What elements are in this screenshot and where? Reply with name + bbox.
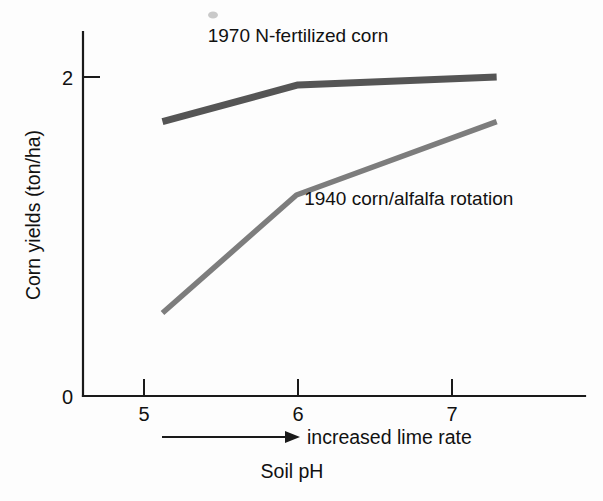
series-line-1940-corn-alfalfa-rotation [162, 122, 496, 313]
x-tick-label-5: 5 [138, 403, 149, 425]
chart-figure: 2 0 5 6 7 1970 N-fertilized corn 1940 co… [0, 0, 603, 501]
scan-artifact-speck [208, 12, 218, 19]
line-chart-canvas: 2 0 5 6 7 1970 N-fertilized corn 1940 co… [0, 0, 603, 501]
y-tick-label-0: 0 [62, 386, 73, 408]
series-label-lower: 1940 corn/alfalfa rotation [304, 188, 513, 209]
series-label-upper: 1970 N-fertilized corn [208, 25, 389, 46]
y-axis-title: Corn yields (ton/ha) [22, 130, 44, 300]
series-line-1970-n-fertilized-corn [162, 77, 496, 122]
lime-rate-label: increased lime rate [307, 426, 472, 448]
lime-rate-arrow-head-icon [285, 431, 300, 443]
x-tick-label-6: 6 [292, 403, 303, 425]
y-tick-label-2: 2 [62, 67, 73, 89]
x-axis-title: Soil pH [261, 460, 324, 482]
x-tick-label-7: 7 [446, 403, 457, 425]
